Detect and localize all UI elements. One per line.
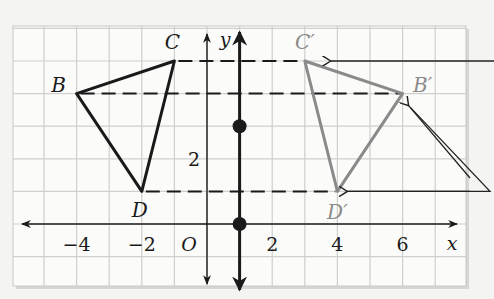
reflection-point [233,119,247,133]
x-tick-label: 2 [266,233,278,255]
vertex-label-b-prime: B′ [412,73,433,97]
x-tick-label: −2 [128,233,156,255]
y-axis-label: y [219,28,231,50]
vertex-label-d-prime: D′ [326,200,348,224]
vertex-label-c-prime: C′ [295,30,315,54]
y-tick-label: 2 [188,148,200,170]
x-tick-label: 6 [397,233,409,255]
x-tick-label: 4 [331,233,343,255]
origin-label: O [181,233,197,255]
x-axis-label: x [447,232,458,254]
vertex-label-d: D [131,198,148,222]
vertex-label-c: C [165,30,180,54]
x-tick-label: −4 [63,233,91,255]
vertex-label-b: B [50,73,66,97]
coordinate-diagram: BCDB′C′D′−4−22462Oxy [0,0,494,299]
reflection-point [233,217,247,231]
